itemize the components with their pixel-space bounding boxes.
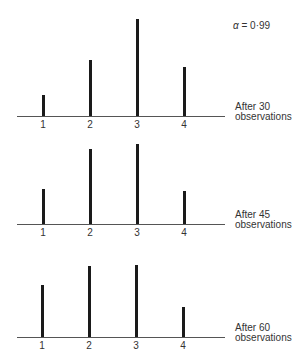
x-axis <box>17 337 225 338</box>
bar-2 <box>88 266 91 337</box>
tick-label-3: 3 <box>130 340 142 351</box>
bar-4 <box>182 307 185 337</box>
tick-label-2: 2 <box>83 340 95 351</box>
bar-1 <box>41 285 44 337</box>
panel-label-line2: observations <box>235 333 292 343</box>
bar-3 <box>135 265 138 337</box>
panel-label: After 60 observations <box>235 323 292 343</box>
tick-label-4: 4 <box>177 340 189 351</box>
panel-after-60: 1 2 3 4 After 60 observations <box>0 0 300 361</box>
tick-label-1: 1 <box>36 340 48 351</box>
